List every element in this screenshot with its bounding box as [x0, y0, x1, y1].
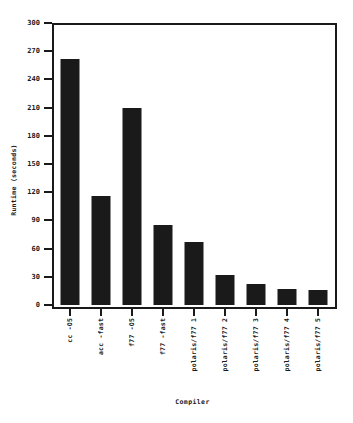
bar-slot — [302, 23, 333, 305]
bar[interactable] — [122, 108, 141, 305]
x-axis-tick-label: polaris/f77 3 — [250, 318, 262, 396]
x-axis-tick-label-text: polaris/f77 3 — [252, 318, 260, 371]
x-axis-tick-label-text: f77 -fast — [159, 318, 167, 355]
x-axis-tick-label-text: cc -O5 — [66, 318, 74, 343]
y-axis-tick-mark — [44, 276, 52, 278]
y-axis-tick-mark — [44, 78, 52, 80]
y-axis-tick: 60 — [0, 244, 52, 254]
y-axis-tick-mark — [44, 107, 52, 109]
x-axis-tick-labels: cc -O5acc -fastf77 -O5f77 -fastpolaris/f… — [54, 318, 333, 398]
bar-slot — [178, 23, 209, 305]
x-axis-tick-label: cc -O5 — [64, 318, 76, 396]
y-axis-tick: 150 — [0, 159, 52, 169]
y-axis-tick-label: 180 — [27, 131, 40, 141]
y-axis-tick: 120 — [0, 187, 52, 197]
x-axis-tick-mark — [224, 307, 226, 316]
y-axis-tick-label: 300 — [27, 18, 40, 28]
bar-slot — [240, 23, 271, 305]
y-axis-tick-label: 150 — [27, 159, 40, 169]
x-axis-tick-label: acc -fast — [95, 318, 107, 396]
bar-slot — [116, 23, 147, 305]
y-axis-tick: 180 — [0, 131, 52, 141]
y-axis-ticks: 0306090120150180210240270300 — [0, 0, 52, 423]
y-axis-tick-mark — [44, 135, 52, 137]
bar[interactable] — [246, 284, 265, 305]
y-axis-tick-label: 270 — [27, 46, 40, 56]
y-axis-tick-label: 210 — [27, 103, 40, 113]
x-axis-ticks — [54, 307, 333, 316]
bar-slot — [271, 23, 302, 305]
x-axis-tick-label: polaris/f77 4 — [281, 318, 293, 396]
y-axis-tick-label: 30 — [32, 272, 40, 282]
y-axis-tick-label: 0 — [36, 300, 40, 310]
bar-slot — [85, 23, 116, 305]
x-axis-tick-mark — [286, 307, 288, 316]
y-axis-tick-label: 60 — [32, 244, 40, 254]
bar-chart: Runtime (seconds) 0306090120150180210240… — [0, 0, 353, 423]
bar-slot — [147, 23, 178, 305]
y-axis-tick: 240 — [0, 74, 52, 84]
bar[interactable] — [60, 59, 79, 305]
y-axis-tick-mark — [44, 50, 52, 52]
bar[interactable] — [215, 275, 234, 305]
y-axis-tick: 30 — [0, 272, 52, 282]
bar[interactable] — [184, 242, 203, 305]
y-axis-tick-mark — [44, 248, 52, 250]
x-axis-tick-label-text: acc -fast — [97, 318, 105, 355]
x-axis-tick-mark — [193, 307, 195, 316]
bar[interactable] — [308, 290, 327, 305]
bar[interactable] — [91, 196, 110, 305]
x-axis-tick-mark — [69, 307, 71, 316]
y-axis-tick: 300 — [0, 18, 52, 28]
x-axis-tick-label-text: polaris/f77 1 — [190, 318, 198, 371]
y-axis-tick: 210 — [0, 103, 52, 113]
y-axis-tick: 0 — [0, 300, 52, 310]
bar[interactable] — [277, 289, 296, 305]
y-axis-tick-label: 120 — [27, 187, 40, 197]
y-axis-tick-mark — [44, 219, 52, 221]
x-axis-tick-label-text: polaris/f77 4 — [283, 318, 291, 371]
x-axis-tick-label: polaris/f77 5 — [312, 318, 324, 396]
y-axis-tick: 270 — [0, 46, 52, 56]
bars-container — [54, 23, 333, 305]
x-axis-tick-label: polaris/f77 1 — [188, 318, 200, 396]
x-axis-tick-label-text: polaris/f77 5 — [314, 318, 322, 371]
bar-slot — [54, 23, 85, 305]
x-axis-tick-mark — [255, 307, 257, 316]
bar[interactable] — [153, 225, 172, 305]
y-axis-tick-label: 240 — [27, 74, 40, 84]
y-axis-tick-label: 90 — [32, 215, 40, 225]
x-axis-tick-mark — [131, 307, 133, 316]
x-axis-tick-mark — [317, 307, 319, 316]
y-axis-tick: 90 — [0, 215, 52, 225]
x-axis-tick-label: f77 -fast — [157, 318, 169, 396]
bar-slot — [209, 23, 240, 305]
y-axis-tick-mark — [44, 22, 52, 24]
x-axis-tick-label: polaris/f77 2 — [219, 318, 231, 396]
x-axis-tick-label-text: polaris/f77 2 — [221, 318, 229, 371]
y-axis-tick-mark — [44, 191, 52, 193]
x-axis-tick-label: f77 -O5 — [126, 318, 138, 396]
x-axis-tick-mark — [100, 307, 102, 316]
x-axis-tick-label-text: f77 -O5 — [128, 318, 136, 347]
y-axis-tick-mark — [44, 304, 52, 306]
y-axis-tick-mark — [44, 163, 52, 165]
x-axis-title: Compiler — [52, 398, 333, 406]
x-axis-tick-mark — [162, 307, 164, 316]
